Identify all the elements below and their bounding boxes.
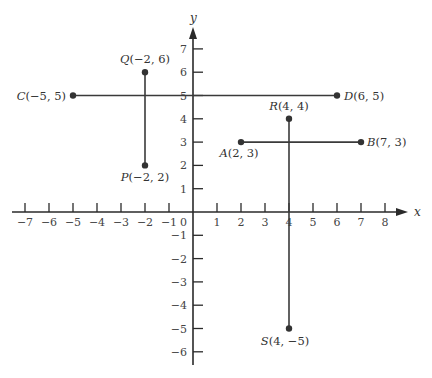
point-label-s: S(4, −5) xyxy=(261,334,309,348)
x-tick-label: −7 xyxy=(17,216,33,229)
y-tick-label: 2 xyxy=(180,159,187,172)
ticks: −7−6−5−4−3−2−1012345678−6−5−4−3−2−112345… xyxy=(17,43,389,359)
point-label-q: Q(−2, 6) xyxy=(120,52,170,66)
point-b xyxy=(358,139,364,145)
y-tick-label: −3 xyxy=(171,276,187,289)
point-d xyxy=(334,92,340,98)
x-tick-label: 1 xyxy=(214,216,221,229)
point-label-d: D(6, 5) xyxy=(343,89,384,103)
segments xyxy=(73,72,361,328)
x-tick-label: 2 xyxy=(238,216,245,229)
y-tick-label: 4 xyxy=(180,113,187,126)
point-p xyxy=(142,162,148,168)
y-tick-label: −4 xyxy=(171,299,187,312)
x-tick-label: 6 xyxy=(334,216,341,229)
y-tick-label: 1 xyxy=(180,183,187,196)
y-tick-label: −2 xyxy=(171,253,187,266)
x-tick-label: −2 xyxy=(137,216,153,229)
point-a xyxy=(238,139,244,145)
x-tick-label: 8 xyxy=(382,216,389,229)
point-label-a: A(2, 3) xyxy=(218,146,258,160)
x-tick-label: −5 xyxy=(65,216,81,229)
y-tick-label: 6 xyxy=(180,66,187,79)
points: A(2, 3)B(7, 3)C(−5, 5)D(6, 5)P(−2, 2)Q(−… xyxy=(17,52,407,347)
y-tick-label: −1 xyxy=(171,229,187,242)
x-tick-label: −1 xyxy=(161,216,177,229)
point-s xyxy=(286,325,292,331)
x-tick-label: 7 xyxy=(358,216,365,229)
y-tick-label: 3 xyxy=(180,136,187,149)
x-axis-arrow-icon xyxy=(396,208,408,216)
y-axis-label: y xyxy=(189,11,197,25)
point-label-b: B(7, 3) xyxy=(366,135,406,149)
point-label-c: C(−5, 5) xyxy=(17,89,66,103)
coordinate-plane: −7−6−5−4−3−2−1012345678−6−5−4−3−2−112345… xyxy=(0,0,432,378)
y-tick-label: −6 xyxy=(171,346,187,359)
point-c xyxy=(70,92,76,98)
point-label-p: P(−2, 2) xyxy=(120,170,169,184)
x-tick-label: 5 xyxy=(310,216,317,229)
x-tick-label: −4 xyxy=(89,216,105,229)
point-label-r: R(4, 4) xyxy=(268,99,309,113)
y-tick-label: 7 xyxy=(180,43,187,56)
x-tick-label: −3 xyxy=(113,216,129,229)
point-q xyxy=(142,69,148,75)
point-r xyxy=(286,116,292,122)
x-tick-label: 3 xyxy=(262,216,269,229)
x-tick-label: −6 xyxy=(41,216,57,229)
coordinate-plane-figure: −7−6−5−4−3−2−1012345678−6−5−4−3−2−112345… xyxy=(0,0,432,378)
y-tick-label: −5 xyxy=(171,323,187,336)
x-axis-label: x xyxy=(414,205,421,219)
axes xyxy=(12,27,408,365)
y-axis-arrow-icon xyxy=(189,27,197,39)
x-tick-label: 0 xyxy=(180,216,187,229)
